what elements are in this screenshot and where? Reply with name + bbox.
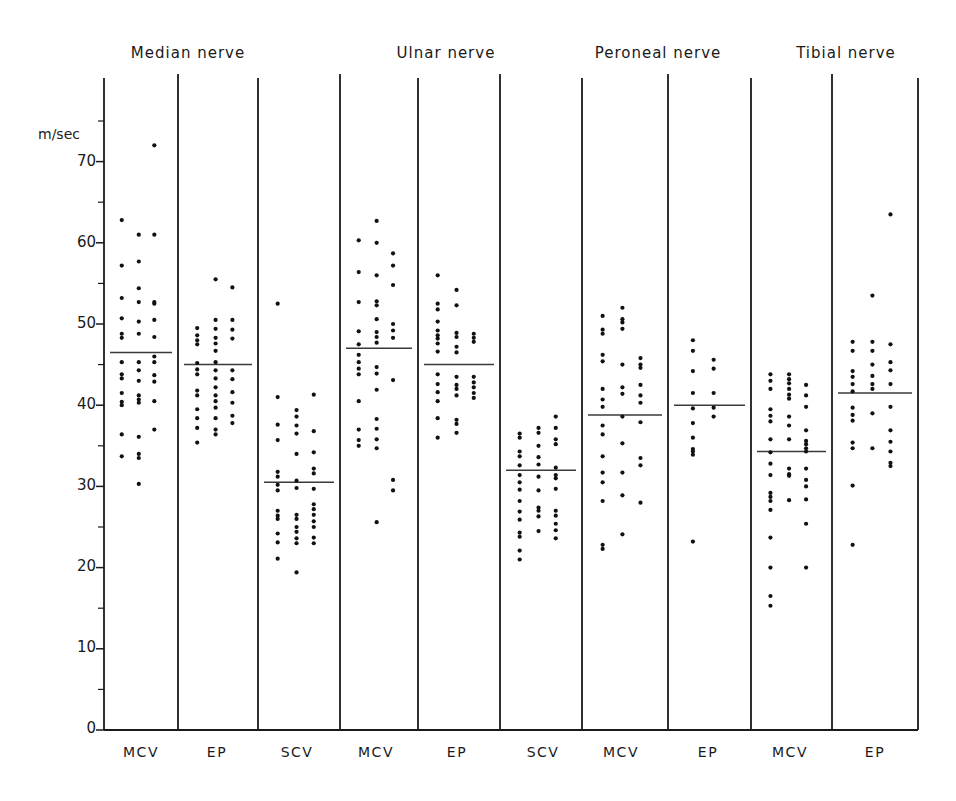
data-point xyxy=(137,379,141,383)
data-point xyxy=(454,422,458,426)
data-point xyxy=(436,328,440,332)
data-point xyxy=(518,436,522,440)
data-point xyxy=(454,288,458,292)
data-point xyxy=(120,432,124,436)
data-point xyxy=(120,218,124,222)
data-point xyxy=(554,414,558,418)
data-point xyxy=(870,363,874,367)
data-point xyxy=(312,525,316,529)
data-point xyxy=(276,509,280,513)
data-point xyxy=(436,390,440,394)
data-point xyxy=(601,499,605,503)
group-title-median: Median nerve xyxy=(131,44,245,62)
data-point xyxy=(888,449,892,453)
data-point xyxy=(294,486,298,490)
data-point xyxy=(620,414,624,418)
data-point xyxy=(357,270,361,274)
data-point xyxy=(276,531,280,535)
data-point xyxy=(536,455,540,459)
data-point xyxy=(787,372,791,376)
data-point xyxy=(357,399,361,403)
data-point xyxy=(518,518,522,522)
data-point xyxy=(851,406,855,410)
data-point xyxy=(454,345,458,349)
data-point xyxy=(787,381,791,385)
data-point xyxy=(375,335,379,339)
data-point xyxy=(391,378,395,382)
data-point xyxy=(195,367,199,371)
data-point xyxy=(454,331,458,335)
data-point xyxy=(638,420,642,424)
data-point xyxy=(312,513,316,517)
data-point xyxy=(888,360,892,364)
data-point xyxy=(638,366,642,370)
category-label-tibial-mcv: MCV xyxy=(772,744,808,760)
data-point xyxy=(137,259,141,263)
data-point xyxy=(454,387,458,391)
data-point xyxy=(436,350,440,354)
data-point xyxy=(536,488,540,492)
data-point xyxy=(888,212,892,216)
data-point xyxy=(712,391,716,395)
data-point xyxy=(620,532,624,536)
group-title-ulnar: Ulnar nerve xyxy=(397,44,496,62)
data-point xyxy=(375,273,379,277)
data-point xyxy=(804,428,808,432)
data-point xyxy=(601,454,605,458)
data-point xyxy=(787,397,791,401)
data-point xyxy=(214,399,218,403)
data-point xyxy=(518,499,522,503)
data-point xyxy=(436,302,440,306)
data-point xyxy=(787,474,791,478)
data-point xyxy=(768,462,772,466)
data-point xyxy=(620,470,624,474)
data-point xyxy=(375,330,379,334)
data-point xyxy=(851,340,855,344)
data-point xyxy=(554,442,558,446)
data-point xyxy=(454,303,458,307)
data-point xyxy=(554,466,558,470)
data-point xyxy=(276,395,280,399)
data-point xyxy=(230,414,234,418)
data-point xyxy=(804,497,808,501)
data-point xyxy=(137,360,141,364)
data-point xyxy=(137,393,141,397)
data-point xyxy=(768,407,772,411)
data-point xyxy=(276,517,280,521)
data-point xyxy=(454,418,458,422)
data-point xyxy=(851,419,855,423)
data-point xyxy=(294,525,298,529)
data-point xyxy=(195,333,199,337)
data-point xyxy=(768,473,772,477)
data-point xyxy=(601,328,605,332)
data-point xyxy=(152,143,156,147)
y-tick-label-40: 40 xyxy=(56,395,96,413)
data-point xyxy=(888,382,892,386)
data-point xyxy=(120,403,124,407)
data-point xyxy=(294,452,298,456)
data-point xyxy=(870,411,874,415)
data-point xyxy=(152,335,156,339)
data-point xyxy=(195,407,199,411)
data-point xyxy=(536,426,540,430)
data-point xyxy=(436,416,440,420)
data-point xyxy=(294,423,298,427)
data-point xyxy=(638,463,642,467)
data-point xyxy=(375,317,379,321)
data-point xyxy=(768,450,772,454)
data-point xyxy=(357,238,361,242)
y-axis xyxy=(96,121,918,730)
data-point xyxy=(768,508,772,512)
data-point xyxy=(851,543,855,547)
data-point xyxy=(804,449,808,453)
data-point xyxy=(294,432,298,436)
data-point xyxy=(137,482,141,486)
data-point xyxy=(391,488,395,492)
data-point xyxy=(691,406,695,410)
y-axis-unit-label: m/sec xyxy=(38,126,80,142)
data-point xyxy=(768,387,772,391)
data-point xyxy=(472,375,476,379)
data-point xyxy=(601,314,605,318)
data-point xyxy=(787,393,791,397)
data-point xyxy=(870,382,874,386)
